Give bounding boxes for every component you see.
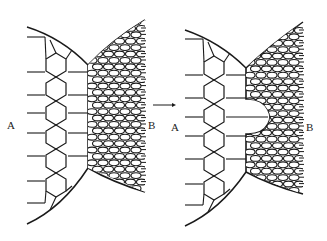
label-b-left: B bbox=[148, 119, 155, 131]
arrow-icon bbox=[153, 103, 176, 107]
diagram-root: A B A B bbox=[0, 0, 327, 241]
label-b-right: B bbox=[306, 121, 313, 133]
label-a-left: A bbox=[7, 119, 15, 131]
grain-boundary-diagram bbox=[0, 0, 327, 241]
right-panel bbox=[185, 21, 305, 226]
left-panel bbox=[27, 15, 148, 224]
label-a-right: A bbox=[171, 121, 179, 133]
